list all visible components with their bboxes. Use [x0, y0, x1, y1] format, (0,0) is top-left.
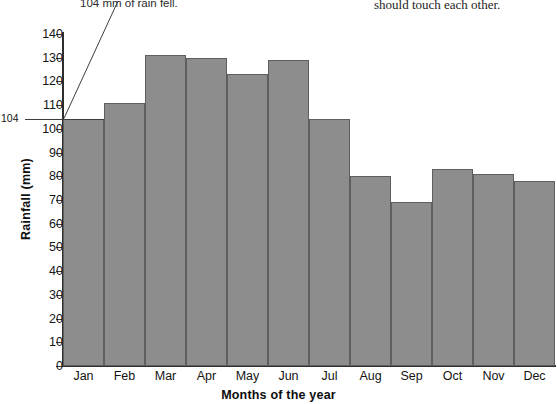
bar-feb[interactable]	[104, 103, 145, 366]
callout-guide-line	[25, 119, 104, 120]
bar-oct[interactable]	[432, 169, 473, 366]
bar-may[interactable]	[227, 74, 268, 366]
bar-jul[interactable]	[309, 119, 350, 366]
bar-apr[interactable]	[186, 58, 227, 366]
x-axis-label-oct: Oct	[432, 369, 473, 383]
x-axis-label-feb: Feb	[104, 369, 145, 383]
x-axis-label-jul: Jul	[309, 369, 350, 383]
x-axis-label-apr: Apr	[186, 369, 227, 383]
bar-jun[interactable]	[268, 60, 309, 366]
bar-series	[0, 0, 557, 404]
bar-nov[interactable]	[473, 174, 514, 366]
x-axis-label-jun: Jun	[268, 369, 309, 383]
bar-sep[interactable]	[391, 202, 432, 366]
x-axis-label-aug: Aug	[350, 369, 391, 383]
x-axis-label-nov: Nov	[473, 369, 514, 383]
x-axis-title: Months of the year	[0, 388, 557, 402]
callout-value-label: 104	[1, 112, 19, 124]
x-axis-label-dec: Dec	[514, 369, 555, 383]
bar-dec[interactable]	[514, 181, 555, 366]
x-axis-label-may: May	[227, 369, 268, 383]
bar-mar[interactable]	[145, 55, 186, 366]
bar-aug[interactable]	[350, 176, 391, 366]
x-axis-label-sep: Sep	[391, 369, 432, 383]
rainfall-bar-chart: 0102030405060708090100110120130140 Rainf…	[0, 0, 557, 404]
bar-jan[interactable]	[63, 119, 104, 366]
x-axis-label-mar: Mar	[145, 369, 186, 383]
x-axis-label-jan: Jan	[63, 369, 104, 383]
